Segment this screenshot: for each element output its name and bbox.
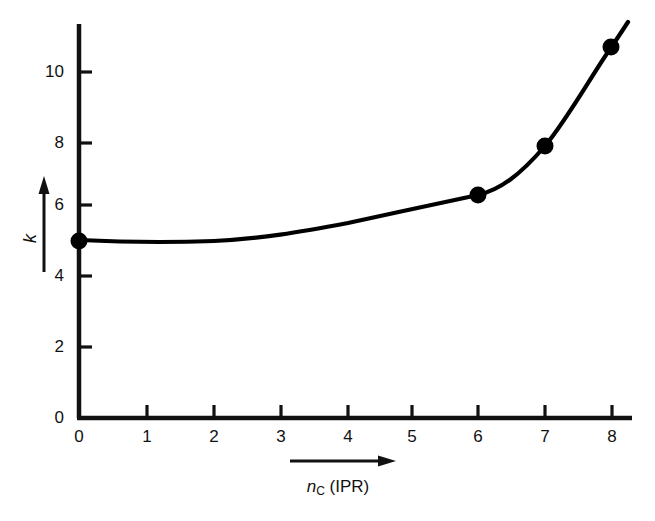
y-tick-label-10: 10 — [36, 63, 64, 80]
data-point-0 — [71, 233, 88, 250]
caption-partial — [30, 505, 630, 517]
data-point-7 — [537, 138, 554, 155]
y-tick-label-6: 6 — [36, 196, 64, 213]
x-tick-label-6: 6 — [464, 428, 492, 445]
right-arrow-icon — [290, 456, 396, 467]
y-axis-title: k — [20, 225, 41, 253]
x-axis-title-subscript: C — [316, 484, 325, 498]
x-tick-label-3: 3 — [267, 428, 295, 445]
x-tick-label-0: 0 — [65, 428, 93, 445]
y-tick-label-8: 8 — [36, 134, 64, 151]
y-tick-label-0: 0 — [36, 409, 64, 426]
x-axis-title: nC (IPR) — [268, 477, 408, 498]
data-point-6 — [470, 187, 487, 204]
x-tick-label-7: 7 — [531, 428, 559, 445]
data-point-markers — [71, 39, 620, 250]
x-tick-label-8: 8 — [598, 428, 626, 445]
data-point-8 — [603, 39, 620, 56]
data-curve — [79, 22, 628, 242]
figure-chart-k-vs-nc: 10 8 6 4 2 0 0 1 2 3 4 5 6 7 8 k nC (IPR… — [0, 0, 655, 521]
x-tick-label-5: 5 — [398, 428, 426, 445]
y-tick-label-4: 4 — [36, 267, 64, 284]
x-tick-label-1: 1 — [133, 428, 161, 445]
y-tick-label-2: 2 — [36, 338, 64, 355]
x-tick-label-4: 4 — [334, 428, 362, 445]
x-axis-title-qualifier: (IPR) — [330, 477, 370, 496]
x-axis-title-symbol: n — [307, 477, 316, 496]
x-tick-label-2: 2 — [200, 428, 228, 445]
